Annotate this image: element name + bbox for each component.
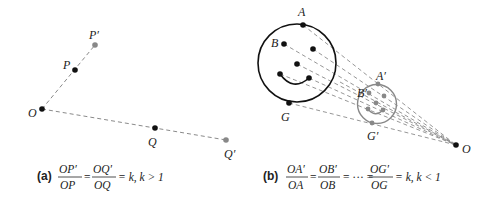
point-g-prime (370, 121, 375, 126)
caption-b-frac2-num: OB′ (319, 163, 337, 175)
caption-b-frac3-den: OG (371, 179, 388, 191)
point-a (300, 22, 306, 28)
label-b: B (271, 36, 279, 50)
point-smile-right-prime (381, 108, 386, 113)
point-p-prime (92, 42, 98, 48)
point-o-b (453, 142, 459, 148)
point-b-prime (367, 91, 372, 96)
point-q (152, 125, 158, 131)
ray-oq (42, 109, 226, 140)
label-a-prime: A′ (375, 69, 386, 83)
point-smile-right (306, 75, 312, 81)
caption-b-frac3-num: OG′ (370, 163, 390, 175)
ray-op (42, 45, 95, 109)
dilation-diagram: O P P′ Q Q′ (a) OP′ OP = OQ′ OQ = k, k >… (0, 0, 498, 202)
point-q-prime (223, 137, 229, 143)
caption-b-ellipsis: = ··· = (343, 171, 373, 183)
label-p: P (62, 58, 71, 72)
label-g-prime: G′ (367, 129, 379, 143)
caption-a-eq1: = (84, 171, 91, 183)
label-o-b: O (462, 142, 471, 156)
caption-a-frac2-num: OQ′ (93, 163, 113, 175)
label-p-prime: P′ (88, 28, 99, 42)
caption-b-tag: (b) (263, 169, 278, 183)
label-b-prime: B′ (357, 86, 367, 100)
caption-b-frac1-den: OA (288, 179, 304, 191)
caption-b-frac2-den: OB (320, 179, 335, 191)
point-nose-prime (374, 101, 379, 106)
caption-a-frac1-den: OP (60, 179, 75, 191)
label-q: Q (148, 135, 157, 149)
caption-b-tail: = k, k < 1 (395, 171, 441, 184)
label-a: A (297, 5, 306, 19)
caption-a-tag: (a) (37, 169, 52, 183)
caption-a-frac2-den: OQ (94, 179, 111, 191)
label-o-a: O (28, 106, 37, 120)
point-p (72, 67, 78, 73)
point-b (281, 41, 287, 47)
point-eye-right (310, 46, 316, 52)
caption-a-tail: = k, k > 1 (118, 171, 164, 184)
label-q-prime: Q′ (224, 147, 236, 161)
original-smile (280, 74, 309, 84)
caption-a-frac1-num: OP′ (59, 163, 77, 175)
point-g (286, 100, 292, 106)
projection-rays (280, 25, 456, 145)
point-nose (294, 61, 300, 67)
point-eye-right-prime (382, 94, 387, 99)
point-smile-left (277, 71, 283, 77)
panel-b: A B G A′ B′ G′ O (b) OA′ OA = OB′ OB = ·… (258, 5, 471, 191)
point-smile-left-prime (366, 107, 371, 112)
label-g: G (281, 110, 290, 124)
point-o-a (39, 106, 45, 112)
caption-b-frac1-num: OA′ (287, 163, 305, 175)
panel-a: O P P′ Q Q′ (a) OP′ OP = OQ′ OQ = k, k >… (28, 28, 236, 191)
caption-b-eq1: = (310, 171, 317, 183)
